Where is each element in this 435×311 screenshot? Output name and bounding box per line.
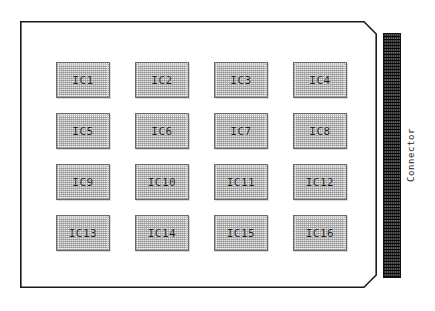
ic-chip-label: IC10 xyxy=(148,176,177,189)
ic-chip[interactable]: IC14 xyxy=(135,215,189,251)
ic-chip[interactable]: IC9 xyxy=(56,164,110,200)
ic-chip[interactable]: IC13 xyxy=(56,215,110,251)
ic-chip[interactable]: IC8 xyxy=(293,113,347,149)
ic-chip[interactable]: IC3 xyxy=(214,62,268,98)
ic-chip-label: IC3 xyxy=(230,74,251,87)
ic-chip-label: IC13 xyxy=(69,227,98,240)
ic-chip[interactable]: IC7 xyxy=(214,113,268,149)
ic-chip[interactable]: IC15 xyxy=(214,215,268,251)
ic-chip[interactable]: IC2 xyxy=(135,62,189,98)
ic-chip[interactable]: IC16 xyxy=(293,215,347,251)
ic-chip[interactable]: IC11 xyxy=(214,164,268,200)
ic-chip-label: IC12 xyxy=(306,176,335,189)
ic-chip-label: IC1 xyxy=(72,74,93,87)
ic-chip[interactable]: IC4 xyxy=(293,62,347,98)
ic-chip-label: IC7 xyxy=(230,125,251,138)
ic-chip-label: IC11 xyxy=(227,176,256,189)
ic-grid: IC1 IC2 IC3 IC4 IC5 IC6 IC7 IC8 IC9 IC10 xyxy=(56,62,348,251)
ic-chip[interactable]: IC10 xyxy=(135,164,189,200)
ic-chip[interactable]: IC6 xyxy=(135,113,189,149)
ic-chip[interactable]: IC1 xyxy=(56,62,110,98)
edge-connector[interactable] xyxy=(383,33,401,278)
ic-chip-label: IC2 xyxy=(151,74,172,87)
ic-chip[interactable]: IC5 xyxy=(56,113,110,149)
connector-label-wrapper: Connector xyxy=(404,124,418,186)
ic-chip-label: IC5 xyxy=(72,125,93,138)
ic-chip-label: IC14 xyxy=(148,227,177,240)
pcb-figure: IC1 IC2 IC3 IC4 IC5 IC6 IC7 IC8 IC9 IC10 xyxy=(0,0,435,311)
connector-label: Connector xyxy=(406,128,416,182)
ic-chip-label: IC15 xyxy=(227,227,256,240)
ic-chip-label: IC6 xyxy=(151,125,172,138)
ic-chip-label: IC4 xyxy=(309,74,330,87)
ic-chip[interactable]: IC12 xyxy=(293,164,347,200)
ic-chip-label: IC9 xyxy=(72,176,93,189)
ic-chip-label: IC8 xyxy=(309,125,330,138)
ic-chip-label: IC16 xyxy=(306,227,335,240)
